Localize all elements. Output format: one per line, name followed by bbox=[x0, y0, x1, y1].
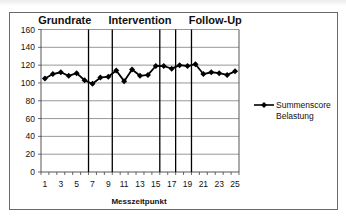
y-tick-label: 100 bbox=[21, 78, 35, 88]
phase-label-follow-up: Follow-Up bbox=[189, 14, 242, 26]
y-axis-ticks: 020406080100120140160 bbox=[21, 25, 41, 178]
x-tick-label: 1 bbox=[43, 179, 48, 189]
diamond-marker-icon bbox=[224, 72, 230, 78]
legend-diamond-marker-icon bbox=[261, 102, 267, 108]
y-tick-label: 60 bbox=[26, 114, 36, 124]
diamond-marker-icon bbox=[185, 63, 191, 69]
y-tick-label: 80 bbox=[26, 96, 36, 106]
legend: Summenscore Belastung bbox=[254, 100, 331, 121]
diamond-marker-icon bbox=[177, 62, 183, 68]
y-tick-label: 20 bbox=[26, 149, 36, 159]
x-tick-label: 11 bbox=[120, 179, 129, 189]
phase-label-intervention: Intervention bbox=[109, 14, 172, 26]
diamond-marker-icon bbox=[66, 73, 72, 79]
x-tick-label: 23 bbox=[214, 179, 224, 189]
y-tick-label: 120 bbox=[21, 60, 35, 70]
gridlines bbox=[41, 30, 239, 155]
diamond-marker-icon bbox=[216, 70, 222, 76]
diamond-marker-icon bbox=[58, 69, 64, 75]
x-tick-label: 7 bbox=[90, 179, 95, 189]
diamond-marker-icon bbox=[232, 68, 238, 74]
x-tick-label: 9 bbox=[106, 179, 111, 189]
legend-label-line2: Belastung bbox=[276, 111, 314, 121]
x-tick-label: 3 bbox=[58, 179, 63, 189]
x-tick-label: 5 bbox=[74, 179, 79, 189]
diamond-marker-icon bbox=[208, 69, 214, 75]
phase-labels: GrundrateInterventionFollow-Up bbox=[38, 14, 242, 26]
x-tick-label: 25 bbox=[230, 179, 240, 189]
x-tick-label: 21 bbox=[199, 179, 209, 189]
line-chart: 020406080100120140160 135791113151719212… bbox=[0, 0, 346, 221]
x-tick-label: 17 bbox=[167, 179, 177, 189]
y-tick-label: 0 bbox=[30, 167, 35, 177]
y-tick-label: 40 bbox=[26, 131, 36, 141]
diamond-marker-icon bbox=[169, 66, 175, 72]
legend-label-line1: Summenscore bbox=[276, 100, 331, 110]
diamond-marker-icon bbox=[161, 63, 167, 69]
x-tick-label: 19 bbox=[183, 179, 193, 189]
x-tick-label: 15 bbox=[151, 179, 161, 189]
phase-label-grundrate: Grundrate bbox=[38, 14, 91, 26]
x-axis-title: Messzeitpunkt bbox=[111, 197, 166, 206]
y-tick-label: 140 bbox=[21, 42, 35, 52]
x-tick-label: 13 bbox=[135, 179, 145, 189]
x-axis: 135791113151719212325 bbox=[41, 30, 240, 190]
y-tick-label: 160 bbox=[21, 25, 35, 35]
